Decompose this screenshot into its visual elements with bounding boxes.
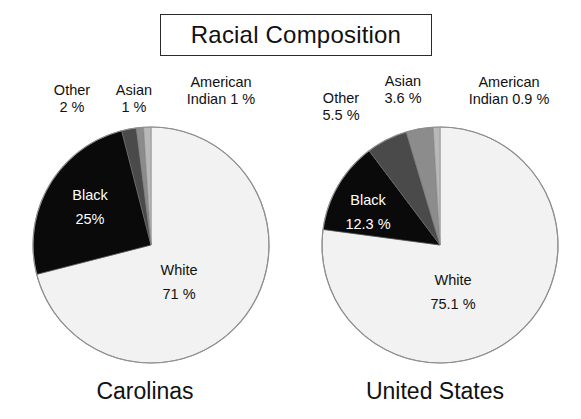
- callout-asian: Asian 3.6 %: [366, 73, 440, 107]
- slice-label-black-value: 25%: [42, 207, 138, 231]
- callout-american-indian-name: American: [478, 74, 539, 90]
- callout-asian-value: 1 %: [103, 99, 165, 116]
- callout-asian-name: Asian: [116, 82, 152, 98]
- callout-other-value: 2 %: [30, 99, 114, 116]
- slice-label-black: Black 25%: [42, 183, 138, 231]
- slice-label-black-name: Black: [350, 192, 385, 208]
- pie-slices-united-states: [322, 127, 558, 363]
- slice-label-black: Black 12.3 %: [316, 188, 420, 236]
- chart-caption-carolinas: Carolinas: [0, 378, 290, 405]
- callout-american-indian-value: Indian 0.9 %: [443, 91, 575, 108]
- pie-chart-carolinas: Other 2 % Asian 1 % American Indian 1 % …: [0, 0, 290, 419]
- slice-label-white-value: 71 %: [131, 282, 227, 306]
- callout-other-name: Other: [323, 90, 359, 106]
- callout-other: Other 2 %: [30, 82, 114, 116]
- racial-composition-figure: Racial Composition Other 2 % Asian 1 % A…: [0, 0, 581, 419]
- slice-label-white-name: White: [160, 262, 197, 278]
- callout-asian-value: 3.6 %: [366, 90, 440, 107]
- slice-label-white: White 75.1 %: [401, 268, 505, 316]
- slice-label-white: White 71 %: [131, 258, 227, 306]
- slice-label-white-value: 75.1 %: [401, 292, 505, 316]
- callout-american-indian-value: Indian 1 %: [160, 91, 282, 108]
- chart-caption-united-states: United States: [290, 378, 580, 405]
- slice-label-black-value: 12.3 %: [316, 212, 420, 236]
- pie-chart-united-states: Other 5.5 % Asian 3.6 % American Indian …: [290, 0, 580, 419]
- callout-asian-name: Asian: [385, 73, 421, 89]
- callout-asian: Asian 1 %: [103, 82, 165, 116]
- callout-other-name: Other: [54, 82, 90, 98]
- slice-label-white-name: White: [434, 272, 471, 288]
- slice-label-black-name: Black: [72, 187, 107, 203]
- pie-slices-carolinas: [33, 127, 269, 363]
- callout-american-indian: American Indian 1 %: [160, 74, 282, 108]
- callout-other-value: 5.5 %: [304, 107, 378, 124]
- callout-american-indian: American Indian 0.9 %: [443, 74, 575, 108]
- callout-american-indian-name: American: [190, 74, 251, 90]
